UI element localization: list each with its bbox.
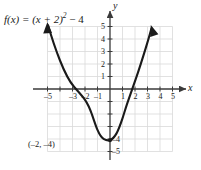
x-axis-label: x [188, 83, 192, 93]
x-tick-label-neg2: –2 [82, 93, 90, 101]
y-tick-label-neg5: –5 [112, 148, 120, 156]
axis-lines [33, 11, 186, 160]
x-tick-label-2: 2 [134, 93, 138, 101]
x-tick-label-neg3: –3 [69, 93, 77, 101]
function-expression-label: f(x) = (x + 2)2 − 4 [4, 12, 84, 25]
vertex-coordinate-label: (–2, –4) [28, 140, 55, 149]
y-tick-label-5: 5 [101, 23, 105, 31]
x-tick-label-1: 1 [121, 93, 125, 101]
parabola-curve [48, 25, 151, 140]
function-expression-main: f(x) = (x + 2) [4, 13, 63, 25]
y-tick-label-4: 4 [101, 36, 105, 44]
function-expression-tail: − 4 [67, 13, 84, 25]
x-tick-label-3: 3 [146, 93, 150, 101]
y-tick-label-neg4: –4 [112, 136, 120, 144]
right-branch-arrowhead [147, 24, 159, 37]
x-tick-label-neg5: –5 [44, 93, 52, 101]
x-tick-label-5: 5 [171, 93, 175, 101]
y-tick-label-1: 1 [101, 73, 105, 81]
y-tick-label-3: 3 [101, 48, 105, 56]
parabola-figure: f(x) = (x + 2)2 − 4 x y –5 –3 –2 –1 1 2 … [0, 0, 201, 170]
x-tick-label-4: 4 [159, 93, 163, 101]
y-axis-label: y [113, 1, 117, 11]
y-tick-label-2: 2 [101, 61, 105, 69]
x-tick-label-neg1: –1 [94, 93, 102, 101]
